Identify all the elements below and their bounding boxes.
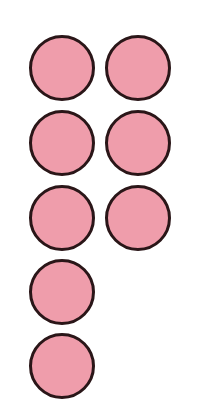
pink-circle-icon <box>105 35 171 101</box>
pink-circle-icon <box>105 110 171 176</box>
pink-circle-icon <box>29 259 95 325</box>
pink-circle-icon <box>29 110 95 176</box>
pink-circle-icon <box>105 185 171 251</box>
pink-circle-icon <box>29 333 95 399</box>
pink-circle-icon <box>29 185 95 251</box>
pink-circle-icon <box>29 35 95 101</box>
